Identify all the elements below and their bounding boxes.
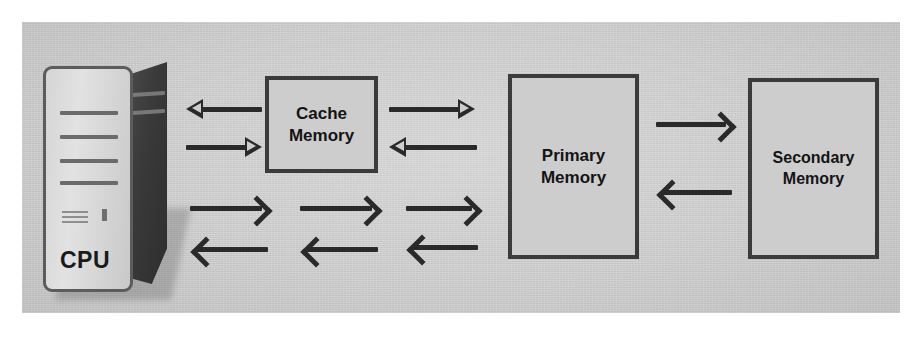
- cpu-label: CPU: [60, 247, 110, 274]
- primary-memory-box: Primary Memory: [508, 74, 639, 259]
- arrow-head-inner: [460, 103, 469, 113]
- secondary-memory-box: Secondary Memory: [748, 78, 879, 259]
- primary-memory-label-line2: Memory: [541, 167, 606, 189]
- arrow-head-inner: [395, 141, 404, 151]
- cpu-floppy-drive-icon: [62, 209, 88, 223]
- arrow-head-inner: [192, 103, 201, 113]
- arrow-shaft: [186, 145, 248, 150]
- cpu-tower: CPU: [43, 58, 173, 296]
- cache-memory-box: Cache Memory: [265, 76, 378, 173]
- cpu-power-button-icon: [102, 209, 107, 221]
- arrow-head-inner: [247, 141, 256, 151]
- cache-memory-label-line1: Cache: [296, 103, 347, 125]
- secondary-memory-label-line2: Memory: [783, 169, 844, 189]
- secondary-memory-label-line1: Secondary: [773, 148, 855, 168]
- cpu-drive-bay-1: [60, 111, 118, 115]
- cache-memory-label-line2: Memory: [289, 125, 354, 147]
- primary-memory-label-line1: Primary: [542, 145, 605, 167]
- memory-hierarchy-diagram: CPU Cache Memory Primary Memory Secondar…: [0, 0, 923, 339]
- arrow-shaft: [389, 107, 461, 112]
- cpu-drive-bay-2: [60, 135, 118, 139]
- cpu-drive-bay-4: [60, 181, 118, 185]
- cpu-tower-front: CPU: [43, 66, 133, 292]
- cpu-drive-bay-3: [60, 159, 118, 163]
- arrow-shaft: [202, 107, 262, 112]
- arrow-shaft: [405, 145, 477, 150]
